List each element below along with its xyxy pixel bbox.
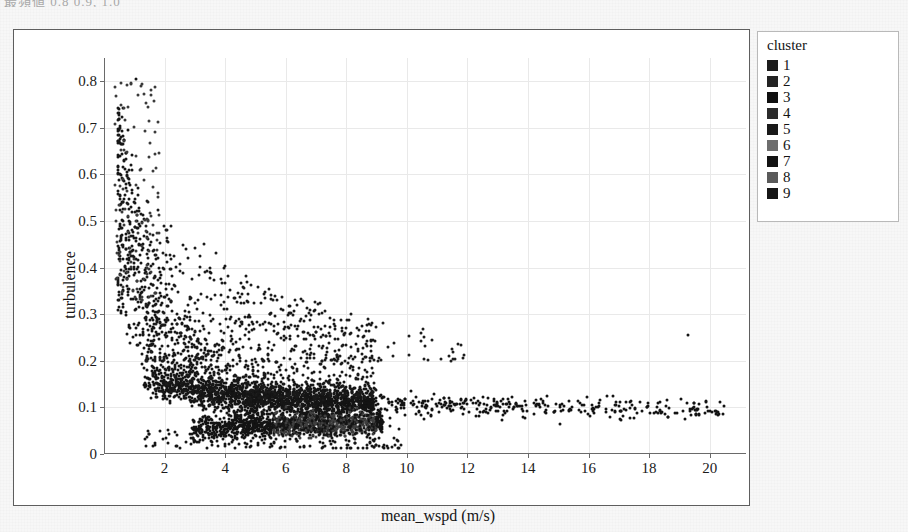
scatter-point [244,363,247,366]
scatter-point [214,251,217,254]
scatter-point [202,379,205,382]
scatter-point [159,292,162,295]
legend-item[interactable]: 8 [767,169,890,185]
scatter-point [118,259,121,262]
scatter-point [123,118,126,121]
scatter-point [325,356,328,359]
scatter-point [230,329,233,332]
scatter-point [321,359,324,362]
scatter-point [155,303,158,306]
scatter-point [161,251,164,254]
scatter-point [421,402,424,405]
legend-item[interactable]: 6 [767,137,890,153]
scatter-point [183,349,186,352]
scatter-point [236,382,239,385]
scatter-point [148,377,151,380]
scatter-point [127,106,130,109]
scatter-point [592,409,595,412]
scatter-point [366,317,369,320]
legend-item[interactable]: 4 [767,105,890,121]
scatter-point [281,295,284,298]
legend-item[interactable]: 5 [767,121,890,137]
scatter-point [271,395,274,398]
legend-item-label: 2 [783,74,791,89]
scatter-point [342,385,345,388]
scatter-point [163,312,166,315]
scatter-point [160,330,163,333]
scatter-point [246,299,249,302]
scatter-point [442,396,445,399]
scatter-point [172,351,175,354]
scatter-point [568,399,571,402]
scatter-point [309,427,312,430]
scatter-point [388,425,391,428]
scatter-point [524,404,527,407]
scatter-point [358,401,361,404]
scatter-point [349,447,352,450]
scatter-point [581,404,584,407]
scatter-point [363,405,366,408]
scatter-point [342,334,345,337]
scatter-point [223,417,226,420]
scatter-point [465,398,468,401]
scatter-point [142,214,145,217]
scatter-point [337,349,340,352]
scatter-point [217,393,220,396]
scatter-point [137,227,140,230]
scatter-point [369,324,372,327]
scatter-point [546,405,549,408]
scatter-point [341,410,344,413]
scatter-point [156,256,159,259]
scatter-point [385,409,388,412]
x-tick-label: 6 [282,460,290,477]
scatter-point [143,93,146,96]
scatter-point [276,323,279,326]
scatter-point [118,184,121,187]
scatter-point [252,328,255,331]
scatter-point [153,100,156,103]
scatter-point [382,395,385,398]
scatter-point [120,233,123,236]
scatter-point [307,419,310,422]
scatter-point [332,318,335,321]
scatter-point [137,301,140,304]
scatter-point [615,401,618,404]
scatter-point [344,435,347,438]
scatter-point [149,271,152,274]
scatter-plot-page: 最頻値 0.8 0.9, 1.0 turbulence mean_wspd (m… [0,0,908,532]
scatter-point [266,426,269,429]
scatter-point [667,407,670,410]
scatter-point [190,377,193,380]
legend-item[interactable]: 9 [767,185,890,201]
scatter-point [323,325,326,328]
scatter-point [334,395,337,398]
scatter-point [257,396,260,399]
legend-item[interactable]: 3 [767,89,890,105]
scatter-point [203,352,206,355]
scatter-point [220,278,223,281]
scatter-point [216,360,219,363]
legend-item[interactable]: 7 [767,153,890,169]
scatter-point [194,367,197,370]
scatter-point [127,215,130,218]
scatter-point [324,427,327,430]
scatter-point [381,321,384,324]
scatter-point [139,262,142,265]
scatter-point [251,414,254,417]
scatter-point [120,203,123,206]
scatter-point [468,410,471,413]
scatter-point [173,390,176,393]
scatter-point [240,320,243,323]
scatter-point [397,397,400,400]
scatter-point [186,346,189,349]
scatter-point [250,389,253,392]
scatter-point [153,276,156,279]
scatter-point [275,419,278,422]
scatter-point [293,298,296,301]
scatter-point [296,399,299,402]
legend-item[interactable]: 1 [767,57,890,73]
legend-item[interactable]: 2 [767,73,890,89]
scatter-point [321,429,324,432]
scatter-point [157,337,160,340]
scatter-point [278,434,281,437]
